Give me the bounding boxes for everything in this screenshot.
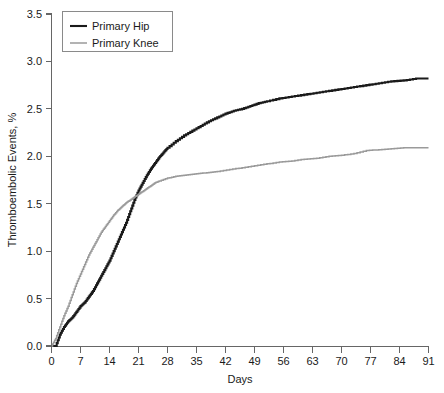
y-tick-label: 0.5	[27, 293, 42, 305]
chart-container: 0.00.51.01.52.02.53.03.5 Thromboembolic …	[0, 0, 444, 393]
y-tick-label: 2.5	[27, 103, 42, 115]
x-tick-label: 28	[161, 355, 173, 367]
y-tick-label: 0.0	[27, 340, 42, 352]
legend-label-primary-knee: Primary Knee	[92, 37, 159, 49]
x-tick-label: 7	[77, 355, 83, 367]
x-tick-label: 0	[48, 355, 54, 367]
x-tick-label: 63	[306, 355, 318, 367]
x-tick-label: 14	[103, 355, 115, 367]
x-tick-label: 77	[364, 355, 376, 367]
y-tick-label: 1.0	[27, 245, 42, 257]
x-axis-title: Days	[227, 373, 253, 385]
x-tick-label: 91	[422, 355, 434, 367]
x-tick-label: 56	[277, 355, 289, 367]
x-tick-label: 49	[248, 355, 260, 367]
x-tick-label: 70	[335, 355, 347, 367]
y-tick-label: 3.0	[27, 55, 42, 67]
x-tick-label: 42	[219, 355, 231, 367]
x-tick-label: 21	[132, 355, 144, 367]
legend: Primary HipPrimary Knee	[63, 12, 173, 52]
y-tick-label: 2.0	[27, 150, 42, 162]
thromboembolic-events-line-chart: 0.00.51.01.52.02.53.03.5 Thromboembolic …	[0, 0, 444, 393]
x-tick-label: 35	[190, 355, 202, 367]
legend-label-primary-hip: Primary Hip	[92, 20, 149, 32]
x-tick-label: 84	[393, 355, 405, 367]
y-tick-label: 3.5	[27, 8, 42, 20]
y-tick-label: 1.5	[27, 198, 42, 210]
y-axis-title: Thromboembolic Events, %	[6, 113, 18, 248]
chart-background	[0, 0, 444, 393]
